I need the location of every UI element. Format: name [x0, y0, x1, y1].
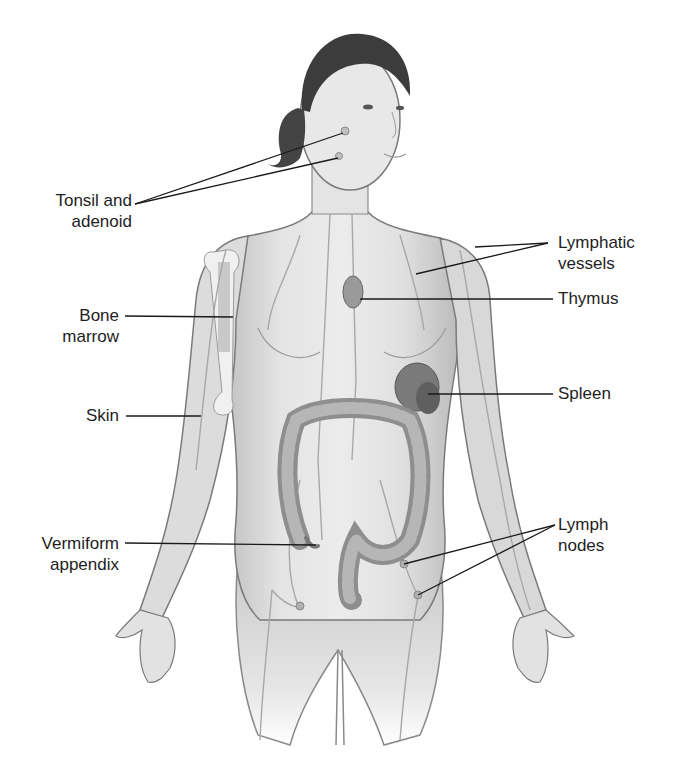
label-line: Vermiform — [42, 533, 119, 554]
label-lymph-nodes: Lymph nodes — [558, 514, 608, 556]
label-line: Spleen — [558, 383, 611, 404]
label-line: appendix — [42, 554, 119, 575]
left-hand — [116, 610, 175, 682]
label-line: Lymphatic — [558, 232, 635, 253]
thymus-organ — [343, 276, 363, 308]
label-line: vessels — [558, 253, 635, 274]
label-line: Skin — [86, 405, 119, 426]
label-line: nodes — [558, 535, 608, 556]
label-vermiform-appendix: Vermiform appendix — [42, 533, 119, 575]
label-line: Lymph — [558, 514, 608, 535]
right-hand — [513, 610, 574, 682]
label-line: adenoid — [55, 211, 132, 232]
label-thymus: Thymus — [558, 288, 618, 309]
label-tonsil-adenoid: Tonsil and adenoid — [55, 190, 132, 232]
leader-tonsil-2 — [135, 158, 338, 204]
label-spleen: Spleen — [558, 383, 611, 404]
label-skin: Skin — [86, 405, 119, 426]
right-arm — [440, 238, 546, 618]
label-line: Tonsil and — [55, 190, 132, 211]
label-line: Bone — [62, 305, 119, 326]
ponytail — [268, 108, 305, 167]
lymphatic-system-diagram: Tonsil and adenoid Bone marrow Skin Verm… — [0, 0, 679, 774]
label-line: Thymus — [558, 288, 618, 309]
label-line: marrow — [62, 326, 119, 347]
label-bone-marrow: Bone marrow — [62, 305, 119, 347]
inguinal-lymph-node — [296, 602, 304, 610]
label-lymphatic-vessels: Lymphatic vessels — [558, 232, 635, 274]
